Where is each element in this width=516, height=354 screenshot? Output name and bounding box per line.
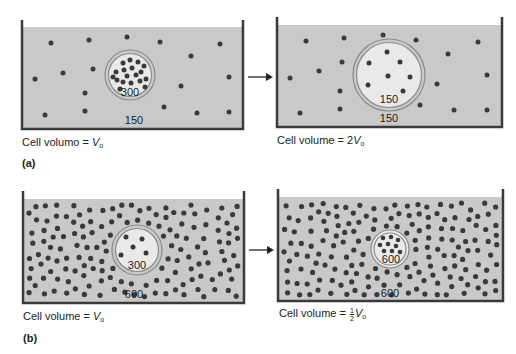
caption-text: Cell volume = — [23, 310, 93, 322]
outside-osmolarity-b-after: 600 — [381, 287, 399, 299]
fraction: 12 — [350, 307, 354, 322]
caption-sub: o — [360, 140, 364, 147]
caption-text: Cell volumo = — [22, 136, 92, 148]
caption-b-before: Cell volume = Vo — [23, 310, 104, 323]
beaker-b-after — [278, 189, 503, 301]
caption-text: Cell volume = 2 — [277, 134, 353, 146]
caption-a-before: Cell volumo = Vo — [22, 136, 103, 149]
outside-osmolarity-a-after: 150 — [380, 112, 398, 124]
beaker-b-before — [23, 191, 244, 303]
inside-osmolarity-a-before: 300 — [121, 86, 139, 98]
caption-sub: o — [99, 142, 103, 149]
beaker-a-after — [277, 17, 502, 127]
panel-label-a: (a) — [22, 157, 35, 169]
panel-label-b: (b) — [23, 332, 37, 344]
outside-osmolarity-b-before: 600 — [125, 288, 143, 300]
caption-text: Cell volume = — [279, 307, 349, 319]
beaker-a-before — [22, 20, 243, 129]
outside-osmolarity-a-before: 150 — [125, 114, 143, 126]
inside-osmolarity-b-before: 300 — [128, 259, 146, 271]
caption-a-after: Cell volume = 2Vo — [277, 134, 364, 147]
caption-sub: o — [362, 313, 366, 320]
inside-osmolarity-b-after: 600 — [382, 253, 400, 265]
caption-b-after: Cell volume = 12Vo — [279, 307, 366, 322]
right-arrow-icon — [248, 73, 273, 81]
osmosis-diagram: 300 150 150 150 — [0, 0, 516, 354]
caption-sub: o — [100, 316, 104, 323]
fraction-numerator: 1 — [350, 307, 354, 315]
fraction-denominator: 2 — [350, 315, 354, 322]
right-arrow-icon — [249, 246, 274, 254]
inside-osmolarity-a-after: 150 — [380, 93, 398, 105]
